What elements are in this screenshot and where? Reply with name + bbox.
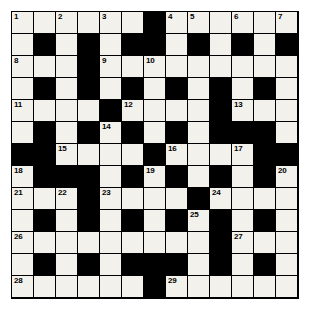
grid-cell[interactable] [254, 34, 276, 56]
grid-cell[interactable] [254, 100, 276, 122]
grid-cell[interactable] [232, 56, 254, 78]
grid-cell[interactable] [232, 78, 254, 100]
grid-cell[interactable]: 29 [166, 276, 188, 298]
grid-cell[interactable] [144, 100, 166, 122]
grid-cell[interactable] [12, 122, 34, 144]
grid-cell[interactable]: 27 [232, 232, 254, 254]
grid-cell[interactable] [34, 188, 56, 210]
grid-cell[interactable] [166, 188, 188, 210]
grid-cell[interactable] [276, 232, 298, 254]
grid-cell[interactable]: 16 [166, 144, 188, 166]
grid-cell[interactable]: 18 [12, 166, 34, 188]
grid-cell[interactable] [210, 12, 232, 34]
grid-cell[interactable] [100, 276, 122, 298]
grid-cell[interactable] [78, 276, 100, 298]
grid-cell[interactable] [276, 188, 298, 210]
grid-cell[interactable] [276, 254, 298, 276]
grid-cell[interactable] [254, 12, 276, 34]
grid-cell[interactable]: 21 [12, 188, 34, 210]
grid-cell[interactable] [12, 78, 34, 100]
grid-cell[interactable]: 24 [210, 188, 232, 210]
grid-cell[interactable]: 7 [276, 12, 298, 34]
grid-cell[interactable]: 4 [166, 12, 188, 34]
grid-cell[interactable] [12, 210, 34, 232]
grid-cell[interactable]: 19 [144, 166, 166, 188]
grid-cell[interactable] [210, 34, 232, 56]
grid-cell[interactable]: 25 [188, 210, 210, 232]
grid-cell[interactable] [12, 254, 34, 276]
grid-cell[interactable] [232, 210, 254, 232]
grid-cell[interactable]: 26 [12, 232, 34, 254]
grid-cell[interactable] [276, 78, 298, 100]
grid-cell[interactable] [144, 188, 166, 210]
grid-cell[interactable] [188, 56, 210, 78]
grid-cell[interactable] [78, 232, 100, 254]
grid-cell[interactable] [254, 276, 276, 298]
grid-cell[interactable] [276, 100, 298, 122]
grid-cell[interactable]: 28 [12, 276, 34, 298]
grid-cell[interactable] [56, 78, 78, 100]
grid-cell[interactable] [122, 12, 144, 34]
grid-cell[interactable] [56, 276, 78, 298]
grid-cell[interactable] [166, 34, 188, 56]
grid-cell[interactable] [100, 166, 122, 188]
grid-cell[interactable] [188, 144, 210, 166]
grid-cell[interactable]: 2 [56, 12, 78, 34]
grid-cell[interactable] [210, 144, 232, 166]
grid-cell[interactable]: 6 [232, 12, 254, 34]
grid-cell[interactable] [210, 276, 232, 298]
grid-cell[interactable] [56, 56, 78, 78]
grid-cell[interactable] [166, 56, 188, 78]
grid-cell[interactable]: 14 [100, 122, 122, 144]
grid-cell[interactable] [100, 34, 122, 56]
grid-cell[interactable]: 8 [12, 56, 34, 78]
grid-cell[interactable] [100, 144, 122, 166]
grid-cell[interactable]: 17 [232, 144, 254, 166]
grid-cell[interactable] [254, 56, 276, 78]
grid-cell[interactable]: 22 [56, 188, 78, 210]
grid-cell[interactable] [56, 122, 78, 144]
grid-cell[interactable] [122, 56, 144, 78]
grid-cell[interactable]: 20 [276, 166, 298, 188]
grid-cell[interactable] [166, 100, 188, 122]
grid-cell[interactable] [166, 232, 188, 254]
grid-cell[interactable] [144, 122, 166, 144]
grid-cell[interactable] [34, 12, 56, 34]
grid-cell[interactable] [144, 210, 166, 232]
grid-cell[interactable]: 13 [232, 100, 254, 122]
grid-cell[interactable] [276, 210, 298, 232]
grid-cell[interactable] [100, 254, 122, 276]
grid-cell[interactable] [100, 78, 122, 100]
grid-cell[interactable] [100, 232, 122, 254]
grid-cell[interactable] [34, 276, 56, 298]
grid-cell[interactable]: 12 [122, 100, 144, 122]
grid-cell[interactable] [122, 276, 144, 298]
grid-cell[interactable] [188, 78, 210, 100]
grid-cell[interactable] [276, 56, 298, 78]
grid-cell[interactable] [78, 12, 100, 34]
grid-cell[interactable]: 9 [100, 56, 122, 78]
grid-cell[interactable]: 11 [12, 100, 34, 122]
grid-cell[interactable] [34, 100, 56, 122]
grid-cell[interactable] [100, 210, 122, 232]
grid-cell[interactable] [188, 100, 210, 122]
grid-cell[interactable] [56, 210, 78, 232]
grid-cell[interactable]: 5 [188, 12, 210, 34]
grid-cell[interactable]: 3 [100, 12, 122, 34]
grid-cell[interactable] [254, 188, 276, 210]
crossword-grid[interactable]: 1234567891011121314151617181920212223242… [11, 11, 299, 299]
grid-cell[interactable] [56, 34, 78, 56]
grid-cell[interactable] [232, 254, 254, 276]
grid-cell[interactable] [122, 144, 144, 166]
grid-cell[interactable] [122, 232, 144, 254]
grid-cell[interactable] [276, 276, 298, 298]
grid-cell[interactable] [188, 122, 210, 144]
grid-cell[interactable] [12, 34, 34, 56]
grid-cell[interactable] [34, 232, 56, 254]
grid-cell[interactable] [254, 232, 276, 254]
grid-cell[interactable] [188, 232, 210, 254]
grid-cell[interactable] [232, 166, 254, 188]
grid-cell[interactable] [122, 188, 144, 210]
grid-cell[interactable]: 23 [100, 188, 122, 210]
grid-cell[interactable] [232, 188, 254, 210]
